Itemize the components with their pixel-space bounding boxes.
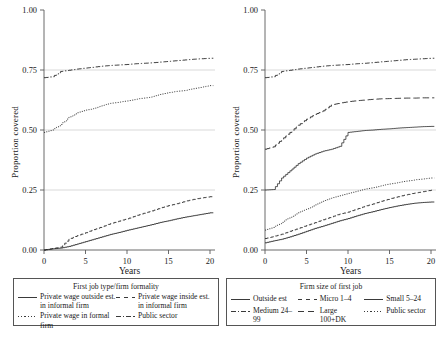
x-tick-label-1: 5: [83, 257, 87, 266]
x-axis-label-right: Years: [265, 266, 436, 276]
legend-left-row-1: Private wage outside est. in informal fi…: [18, 292, 214, 310]
line-style-solid-icon: [18, 293, 37, 302]
line-style-dashed-icon: [298, 295, 317, 304]
x-tick-label-3: 15: [164, 257, 172, 266]
legend-label: Private wage outside est. in informal fi…: [40, 292, 116, 310]
chart-panel-left: Proportion covered 0.00 0.25 0.50 0.: [0, 0, 221, 272]
y-tick-label-0: 0.00: [243, 246, 258, 255]
legend-label: Medium 24–99: [253, 306, 298, 324]
y-tick-label-0: 0.00: [22, 246, 37, 255]
x-tick-label-0: 0: [42, 257, 46, 266]
legend-label: Large 100+DK: [320, 306, 365, 324]
x-tick-label-4: 20: [427, 257, 435, 266]
y-tick-label-4: 1.00: [22, 6, 37, 15]
line-style-dotted-icon: [364, 307, 383, 316]
series-line: [44, 58, 213, 77]
gridlines-left: [44, 70, 215, 190]
y-ticks-right: [261, 10, 265, 250]
data-curves-left: [44, 58, 213, 250]
line-style-long-dash-icon: [298, 307, 317, 316]
legend-right-row-1: Outside est Micro 1–4 Small 5–24: [231, 294, 431, 304]
legend-item-public-sector[interactable]: Public sector: [116, 311, 214, 321]
legend-item-private-wage-inside-est[interactable]: Private wage inside est. in informal fir…: [116, 292, 214, 310]
legend-label: Micro 1–4: [320, 294, 352, 303]
y-tick-label-2: 0.50: [243, 126, 258, 135]
legend-right-title: Firm size of first job: [231, 282, 431, 291]
legend-item-private-wage-formal-firm[interactable]: Private wage in formal firm: [18, 311, 116, 329]
line-style-solid-icon: [364, 295, 383, 304]
x-tick-label-4: 20: [206, 257, 214, 266]
y-tick-label-1: 0.25: [22, 186, 37, 195]
line-style-dashed-icon: [116, 293, 135, 302]
legend-item-large[interactable]: Large 100+DK: [298, 306, 365, 324]
x-tick-label-0: 0: [263, 257, 267, 266]
legend-item-private-wage-outside-est[interactable]: Private wage outside est. in informal fi…: [18, 292, 116, 310]
y-ticks-left: [40, 10, 44, 250]
y-tick-label-3: 0.75: [22, 66, 37, 75]
line-style-dotted-icon: [18, 312, 37, 321]
legend-right-row-2: Medium 24–99 Large 100+DK Public sector: [231, 306, 431, 324]
x-tick-label-2: 10: [344, 257, 352, 266]
plot-area-right: 0.00 0.25 0.50 0.75 1.00 0 5 10 15 20: [221, 0, 442, 272]
gridlines-right: [265, 70, 436, 190]
y-tick-label-1: 0.25: [243, 186, 258, 195]
legend-item-outside-est[interactable]: Outside est: [231, 294, 298, 304]
series-line: [265, 98, 434, 149]
plot-area-left: 0.00 0.25 0.50 0.75 1.00 0 5 10 15 20: [0, 0, 221, 272]
legend-left-title: First job type/firm formality: [18, 282, 214, 291]
series-line: [44, 197, 213, 250]
line-style-dash-dot-icon: [231, 307, 250, 316]
legend-item-micro[interactable]: Micro 1–4: [298, 294, 365, 304]
y-tick-label-3: 0.75: [243, 66, 258, 75]
line-style-dash-dot-icon: [116, 312, 135, 321]
x-ticks-right: [265, 250, 431, 254]
series-line: [265, 190, 434, 238]
chart-panel-right: Proportion covered 0.00 0.25 0.50 0.75 1…: [221, 0, 442, 272]
legend-label: Public sector: [386, 306, 425, 315]
legend-item-medium[interactable]: Medium 24–99: [231, 306, 298, 324]
data-curves-right: [265, 58, 434, 243]
legend-label: Private wage inside est. in informal fir…: [138, 292, 214, 310]
x-tick-label-2: 10: [123, 257, 131, 266]
legend-item-small[interactable]: Small 5–24: [364, 294, 431, 304]
x-tick-label-3: 15: [385, 257, 393, 266]
series-line: [265, 126, 434, 190]
y-tick-label-4: 1.00: [243, 6, 258, 15]
legend-item-public-sector[interactable]: Public sector: [364, 306, 431, 316]
line-style-solid-icon: [231, 295, 250, 304]
x-axis-label-left: Years: [44, 266, 215, 276]
legend-label: Private wage in formal firm: [40, 311, 116, 329]
series-line: [44, 86, 213, 133]
legend-left-row-2: Private wage in formal firm Public secto…: [18, 311, 214, 329]
figure: Proportion covered 0.00 0.25 0.50 0.: [0, 0, 442, 339]
x-tick-label-1: 5: [304, 257, 308, 266]
series-line: [265, 58, 434, 77]
legend-label: Small 5–24: [386, 294, 421, 303]
legend-left: First job type/firm formality Private wa…: [13, 278, 219, 326]
legend-right: Firm size of first job Outside est Micro…: [226, 278, 436, 326]
legend-label: Outside est: [253, 294, 287, 303]
legend-label: Public sector: [138, 311, 177, 320]
series-line: [265, 202, 434, 243]
x-ticks-left: [44, 250, 210, 254]
y-tick-label-2: 0.50: [22, 126, 37, 135]
